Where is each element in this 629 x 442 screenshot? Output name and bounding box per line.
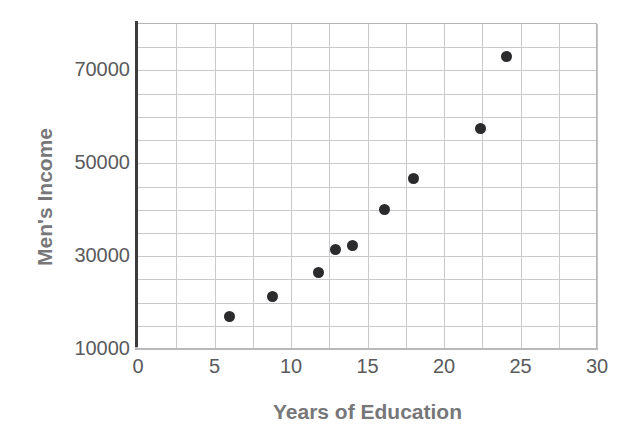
data-point (330, 244, 341, 255)
data-point (347, 240, 358, 251)
data-point (224, 311, 235, 322)
gridline-horizontal (138, 70, 596, 71)
gridline-horizontal (138, 256, 596, 257)
gridline-horizontal (138, 140, 596, 141)
gridline-horizontal (138, 187, 596, 188)
gridline-horizontal (138, 117, 596, 118)
data-point (379, 204, 390, 215)
x-tick-label: 0 (108, 355, 168, 378)
data-point (313, 267, 324, 278)
scatter-plot-figure: Men's Income 10000300005000070000 051015… (0, 0, 629, 442)
x-tick-label: 5 (185, 355, 245, 378)
gridline-vertical (597, 24, 598, 348)
x-tick-label: 15 (338, 355, 398, 378)
gridline-horizontal (138, 233, 596, 234)
x-tick-label: 10 (261, 355, 321, 378)
gridline-horizontal (138, 303, 596, 304)
y-tick-label: 50000 (20, 151, 130, 174)
y-tick-label: 30000 (20, 244, 130, 267)
gridline-horizontal (138, 210, 596, 211)
x-tick-label: 20 (414, 355, 474, 378)
gridline-horizontal (138, 326, 596, 327)
data-point (475, 123, 486, 134)
x-tick-label: 25 (491, 355, 551, 378)
data-point (267, 291, 278, 302)
gridline-horizontal (138, 163, 596, 164)
data-point (408, 173, 419, 184)
y-tick-label: 70000 (20, 58, 130, 81)
x-axis-title: Years of Education (138, 400, 597, 424)
plot-area (138, 23, 597, 348)
gridline-horizontal (138, 94, 596, 95)
data-point (501, 51, 512, 62)
gridline-horizontal (138, 47, 596, 48)
gridline-horizontal (138, 279, 596, 280)
x-tick-label: 30 (567, 355, 627, 378)
